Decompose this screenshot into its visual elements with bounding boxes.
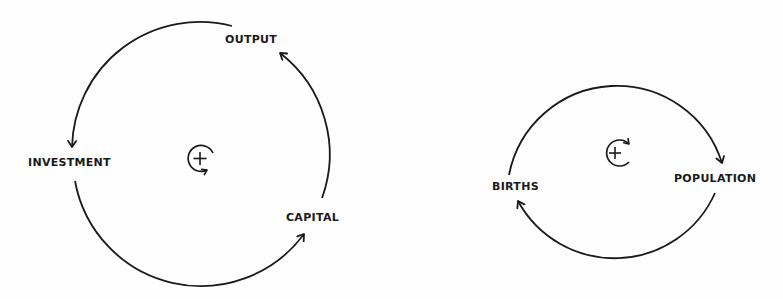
reinforcing-loop-icon: [607, 140, 629, 166]
node-label-capital: CAPITAL: [286, 212, 339, 223]
node-label-population: POPULATION: [674, 173, 756, 184]
causal-loop-figure: OUTPUT INVESTMENT CAPITAL BIRTHS POPULAT…: [0, 0, 783, 299]
loop-diagrams-canvas: [0, 0, 783, 299]
reinforcing-loop-icon: [188, 145, 213, 171]
left-loop: [72, 22, 330, 286]
node-label-output: OUTPUT: [225, 34, 277, 45]
node-label-births: BIRTHS: [492, 181, 539, 192]
link-investment-to-capital: [75, 181, 304, 286]
link-births-to-population: [509, 86, 722, 175]
link-capital-to-output: [280, 53, 330, 198]
link-output-to-investment: [72, 22, 232, 147]
link-population-to-births: [518, 193, 715, 258]
node-label-investment: INVESTMENT: [28, 157, 111, 168]
